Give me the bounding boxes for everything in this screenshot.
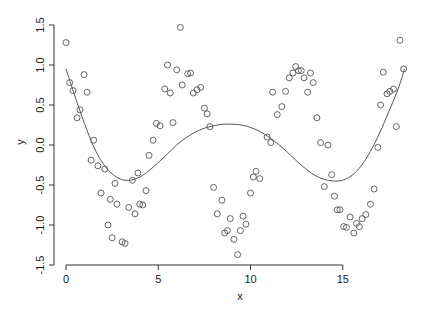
data-point (305, 89, 311, 95)
x-axis-title: x (237, 290, 243, 302)
data-point (98, 190, 104, 196)
data-point (231, 236, 237, 242)
data-point (351, 230, 357, 236)
x-tick-label: 5 (155, 273, 161, 285)
data-point (314, 115, 320, 121)
data-point (81, 72, 87, 78)
y-tick-label: 0.5 (34, 97, 46, 112)
x-tick-label: 0 (63, 273, 69, 285)
data-point (270, 89, 276, 95)
data-point (268, 140, 274, 146)
data-point (84, 89, 90, 95)
data-point (378, 102, 384, 108)
data-point (170, 120, 176, 126)
data-point (95, 163, 101, 169)
data-point (150, 137, 156, 143)
data-point (329, 172, 335, 178)
data-point (318, 140, 324, 146)
data-point (112, 180, 118, 186)
data-point (162, 86, 168, 92)
y-tick-label: -0.5 (34, 176, 46, 195)
data-point (219, 197, 225, 203)
data-point (177, 24, 183, 30)
x-axis: 051015 (63, 265, 349, 285)
data-point (359, 216, 365, 222)
data-point (371, 186, 377, 192)
y-tick-label: 0.0 (34, 137, 46, 152)
data-point (347, 214, 353, 220)
data-point (190, 90, 196, 96)
x-tick-label: 10 (244, 273, 256, 285)
data-point (204, 111, 210, 117)
data-point (201, 105, 207, 111)
data-point (331, 193, 337, 199)
data-point (88, 157, 94, 163)
data-point (227, 216, 233, 222)
data-point (250, 174, 256, 180)
data-point (307, 70, 313, 76)
data-point (235, 252, 241, 258)
data-point (325, 142, 331, 148)
data-point (179, 82, 185, 88)
data-point (380, 69, 386, 75)
y-axis-title: y (14, 139, 26, 145)
data-point (107, 196, 113, 202)
data-point (274, 112, 280, 118)
fit-curve (66, 69, 405, 181)
scatter-chart: -1.5-1.0-0.50.00.51.01.5 051015 x y (0, 0, 446, 318)
y-tick-label: -1.0 (34, 216, 46, 235)
y-tick-label: 1.5 (34, 17, 46, 32)
data-point (363, 212, 369, 218)
data-point (74, 115, 80, 121)
data-point (63, 40, 69, 46)
data-point (114, 201, 120, 207)
data-point (243, 221, 249, 227)
data-point (143, 188, 149, 194)
y-tick-label: 1.0 (34, 57, 46, 72)
data-point (283, 88, 289, 94)
data-point (367, 201, 373, 207)
data-point (310, 80, 316, 86)
x-tick-label: 15 (337, 273, 349, 285)
data-point (301, 75, 307, 81)
data-point (321, 184, 327, 190)
data-point (167, 90, 173, 96)
data-point (375, 144, 381, 150)
data-point (237, 228, 243, 234)
data-points (63, 24, 407, 257)
y-axis: -1.5-1.0-0.50.00.51.01.5 (34, 17, 54, 274)
data-point (240, 213, 246, 219)
data-point (126, 204, 132, 210)
data-point (393, 124, 399, 130)
data-point (109, 235, 115, 241)
data-point (174, 67, 180, 73)
data-point (132, 211, 138, 217)
data-point (91, 137, 97, 143)
data-point (248, 190, 254, 196)
y-tick-label: -1.5 (34, 256, 46, 275)
data-point (135, 170, 141, 176)
data-point (253, 168, 259, 174)
data-point (105, 222, 111, 228)
data-point (397, 37, 403, 43)
smooth-fit-line (66, 69, 405, 181)
data-point (279, 104, 285, 110)
data-point (146, 152, 152, 158)
data-point (214, 211, 220, 217)
data-point (164, 62, 170, 68)
data-point (257, 176, 263, 182)
data-point (211, 184, 217, 190)
